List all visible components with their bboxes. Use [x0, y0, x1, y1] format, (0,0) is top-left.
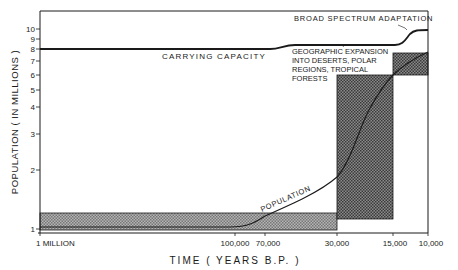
y-tick-7: 7 — [31, 57, 36, 66]
x-tick-15000: 15,000 — [383, 239, 408, 248]
broad-spectrum-arrow — [398, 25, 407, 30]
shaded-region-mid — [337, 75, 393, 219]
svg-text:GEOGRAPHIC EXPANSION: GEOGRAPHIC EXPANSION — [292, 47, 388, 56]
x-tick-1-million: 1 MILLION — [36, 239, 75, 248]
y-tick-10: 10 — [26, 25, 35, 34]
y-tick-5: 5 — [31, 86, 36, 95]
broad-spectrum-adaptation-label: BROAD SPECTRUM ADAPTATION — [294, 14, 433, 23]
y-tick-8: 8 — [31, 45, 36, 54]
svg-text:INTO DESERTS, POLAR: INTO DESERTS, POLAR — [292, 56, 377, 65]
y-tick-6: 6 — [31, 71, 36, 80]
svg-text:FORESTS: FORESTS — [292, 74, 327, 83]
y-tick-1: 1 — [31, 225, 36, 234]
x-tick-10000: 10,000 — [419, 239, 444, 248]
x-tick-30000: 30,000 — [325, 239, 350, 248]
shaded-region-late — [393, 53, 428, 75]
y-tick-2: 2 — [31, 166, 36, 175]
carrying-capacity-label: CARRYING CAPACITY — [162, 52, 266, 61]
x-tick-100000: 100,000 — [221, 239, 250, 248]
y-axis — [36, 29, 40, 229]
shaded-regions — [40, 53, 428, 230]
x-tick-labels: 1 MILLION 100,000 70,000 30,000 15,000 1… — [36, 239, 444, 248]
y-tick-9: 9 — [31, 35, 36, 44]
x-axis-title: TIME ( YEARS B.P. ) — [170, 255, 301, 266]
y-tick-3: 3 — [31, 130, 36, 139]
population-chart: 10 9 8 7 6 5 4 3 2 1 1 MILLION 100,000 7… — [0, 0, 458, 270]
population-label: POPULATION — [259, 184, 312, 214]
y-axis-title: POPULATION ( IN MILLIONS ) — [9, 50, 20, 194]
x-tick-70000: 70,000 — [256, 239, 281, 248]
y-tick-4: 4 — [31, 103, 36, 112]
y-tick-labels: 10 9 8 7 6 5 4 3 2 1 — [26, 25, 35, 234]
svg-text:REGIONS, TROPICAL: REGIONS, TROPICAL — [292, 65, 368, 74]
